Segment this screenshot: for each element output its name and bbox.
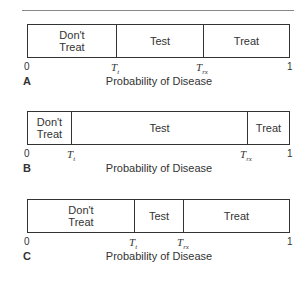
top-divider-rule xyxy=(22,10,294,11)
segment-label-line2: Treat xyxy=(59,41,84,53)
segment-label-line1: Don't xyxy=(37,116,62,128)
probability-bar-b: Don't Treat Test Treat xyxy=(27,111,290,145)
segment-dont-treat: Don't Treat xyxy=(28,112,71,144)
panel-a: Don't Treat Test Treat 0 Tt Trx 1 A Prob… xyxy=(0,24,308,104)
segment-treat: Treat xyxy=(203,25,289,57)
axis-start-label: 0 xyxy=(24,236,30,247)
panel-c: Don't Treat Test Treat 0 Tt Trx 1 C Prob… xyxy=(0,199,308,279)
segment-label: Treat xyxy=(224,210,249,222)
probability-bar-c: Don't Treat Test Treat xyxy=(27,199,290,233)
probability-bar-a: Don't Treat Test Treat xyxy=(27,24,290,58)
test-threshold-label: Tt xyxy=(129,236,137,251)
x-axis-label: Probability of Disease xyxy=(0,162,308,174)
segment-label: Treat xyxy=(234,35,259,47)
segment-label: Don't Treat xyxy=(59,29,84,53)
axis-end-label: 1 xyxy=(287,236,293,247)
segment-test: Test xyxy=(116,25,203,57)
treat-threshold-label: Trx xyxy=(177,236,189,251)
test-threshold-label: Tt xyxy=(111,61,119,76)
segment-label: Test xyxy=(149,210,169,222)
treat-threshold-label: Trx xyxy=(196,61,208,76)
segment-test: Test xyxy=(71,112,247,144)
segment-test: Test xyxy=(134,200,183,232)
segment-dont-treat: Don't Treat xyxy=(28,200,134,232)
segment-dont-treat: Don't Treat xyxy=(28,25,116,57)
axis-start-label: 0 xyxy=(24,61,30,72)
segment-treat: Treat xyxy=(183,200,289,232)
panel-b: Don't Treat Test Treat 0 Tt Trx 1 B Prob… xyxy=(0,111,308,191)
axis-end-label: 1 xyxy=(287,61,293,72)
axis-start-label: 0 xyxy=(24,148,30,159)
test-threshold-label: Tt xyxy=(67,148,75,163)
segment-label-line1: Don't xyxy=(59,29,84,41)
segment-label: Don't Treat xyxy=(37,116,62,140)
x-axis-label: Probability of Disease xyxy=(0,75,308,87)
segment-label: Don't Treat xyxy=(68,204,93,228)
treat-threshold-label: Trx xyxy=(240,148,252,163)
segment-label-line2: Treat xyxy=(37,128,62,140)
segment-label: Treat xyxy=(256,122,281,134)
axis-end-label: 1 xyxy=(287,148,293,159)
segment-label: Test xyxy=(149,122,169,134)
segment-treat: Treat xyxy=(247,112,289,144)
segment-label-line2: Treat xyxy=(68,216,93,228)
x-axis-label: Probability of Disease xyxy=(0,250,308,262)
segment-label: Test xyxy=(150,35,170,47)
segment-label-line1: Don't xyxy=(68,204,93,216)
